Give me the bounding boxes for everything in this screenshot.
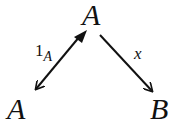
arrow-x <box>100 35 152 91</box>
node-right-B: B <box>150 94 168 124</box>
node-top-A: A <box>82 0 100 30</box>
label-identity-sub: A <box>44 49 53 64</box>
label-identity: 1A <box>35 42 52 59</box>
label-identity-main: 1 <box>35 41 44 60</box>
node-left-A: A <box>7 94 25 124</box>
label-x: x <box>134 45 142 62</box>
